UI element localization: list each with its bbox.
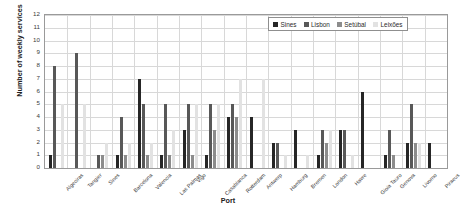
bar-group bbox=[134, 15, 156, 168]
bar bbox=[187, 104, 190, 168]
bar-group bbox=[313, 15, 335, 168]
bar bbox=[61, 104, 64, 168]
bar bbox=[142, 104, 145, 168]
bar bbox=[392, 155, 395, 168]
bar-group bbox=[67, 15, 89, 168]
bar bbox=[351, 155, 354, 168]
bar bbox=[195, 104, 198, 168]
bar bbox=[418, 143, 421, 169]
bar bbox=[414, 143, 417, 169]
y-tick-label: 9 bbox=[37, 49, 40, 55]
x-tick-label: Valencia bbox=[153, 172, 172, 191]
bar-group bbox=[246, 15, 268, 168]
x-tick-label: Havre bbox=[353, 172, 367, 186]
bar-group bbox=[380, 15, 402, 168]
legend-swatch-icon bbox=[373, 22, 378, 27]
bar bbox=[172, 130, 175, 168]
bar bbox=[306, 155, 309, 168]
y-tick-label: 6 bbox=[37, 88, 40, 94]
legend-swatch-icon bbox=[337, 22, 342, 27]
x-tick-label: Livorno bbox=[421, 172, 438, 189]
plot-area bbox=[44, 14, 448, 169]
bar bbox=[124, 155, 127, 168]
bar-group bbox=[179, 15, 201, 168]
bar bbox=[164, 104, 167, 168]
bar bbox=[116, 155, 119, 168]
bar bbox=[105, 143, 108, 169]
bar bbox=[235, 117, 238, 168]
bar bbox=[49, 155, 52, 168]
bar bbox=[361, 92, 364, 169]
bar bbox=[284, 155, 287, 168]
bar bbox=[183, 130, 186, 168]
legend-label: Leixões bbox=[381, 21, 403, 28]
bar bbox=[329, 130, 332, 168]
bar bbox=[239, 79, 242, 168]
bar bbox=[227, 117, 230, 168]
bar-group bbox=[291, 15, 313, 168]
y-tick-label: 1 bbox=[37, 151, 40, 157]
bar bbox=[388, 130, 391, 168]
y-tick-label: 10 bbox=[33, 37, 40, 43]
bar bbox=[138, 79, 141, 168]
y-tick-label: 11 bbox=[34, 24, 40, 30]
legend-item[interactable]: Sines bbox=[273, 21, 297, 28]
bar-group bbox=[358, 15, 380, 168]
bar-group bbox=[45, 15, 67, 168]
bar bbox=[406, 143, 409, 169]
x-tick-label: Bremen bbox=[309, 172, 327, 190]
bar bbox=[168, 155, 171, 168]
bar-groups bbox=[45, 15, 447, 168]
bar bbox=[321, 130, 324, 168]
legend: SinesLisbonSetúbalLeixões bbox=[268, 17, 408, 31]
bar-group bbox=[90, 15, 112, 168]
legend-item[interactable]: Setúbal bbox=[337, 21, 366, 28]
legend-item[interactable]: Lisbon bbox=[304, 21, 330, 28]
bar bbox=[53, 66, 56, 168]
legend-label: Lisbon bbox=[311, 21, 330, 28]
legend-label: Sines bbox=[281, 21, 297, 28]
bar-group bbox=[201, 15, 223, 168]
bar bbox=[128, 143, 131, 169]
x-tick-label: Casablanca bbox=[223, 172, 247, 196]
bar bbox=[428, 143, 431, 169]
x-tick-label: Algeciras bbox=[65, 172, 85, 192]
bar bbox=[75, 53, 78, 168]
y-tick-label: 2 bbox=[37, 139, 40, 145]
x-tick-label: Hamburg bbox=[288, 172, 308, 192]
bar bbox=[101, 155, 104, 168]
y-axis: Number of weekly services 01234567891011… bbox=[0, 0, 44, 169]
bar-group bbox=[425, 15, 447, 168]
bar-group bbox=[335, 15, 357, 168]
bar bbox=[97, 155, 100, 168]
bar bbox=[120, 117, 123, 168]
x-tick-label: Antwerp bbox=[265, 172, 283, 190]
y-tick-label: 4 bbox=[37, 113, 40, 119]
bar bbox=[150, 143, 153, 169]
legend-item[interactable]: Leixões bbox=[373, 21, 403, 28]
y-tick-label: 3 bbox=[37, 126, 40, 132]
x-tick-label: Barcelona bbox=[132, 172, 153, 193]
x-tick-label: Sines bbox=[107, 172, 121, 186]
bar-group bbox=[157, 15, 179, 168]
bar bbox=[213, 130, 216, 168]
bar bbox=[325, 143, 328, 169]
bar bbox=[217, 104, 220, 168]
bar bbox=[160, 155, 163, 168]
bar-group bbox=[402, 15, 424, 168]
bar bbox=[343, 130, 346, 168]
bar bbox=[146, 155, 149, 168]
legend-swatch-icon bbox=[304, 22, 309, 27]
legend-swatch-icon bbox=[273, 22, 278, 27]
bar bbox=[191, 155, 194, 168]
bar bbox=[231, 104, 234, 168]
y-axis-title: Number of weekly services bbox=[15, 0, 24, 116]
y-tick-label: 8 bbox=[37, 62, 40, 68]
x-tick-label: Tangier bbox=[86, 172, 103, 189]
y-tick-label: 7 bbox=[37, 75, 40, 81]
bar bbox=[317, 155, 320, 168]
bar bbox=[410, 104, 413, 168]
y-tick-label: 5 bbox=[37, 100, 40, 106]
bar-group bbox=[112, 15, 134, 168]
